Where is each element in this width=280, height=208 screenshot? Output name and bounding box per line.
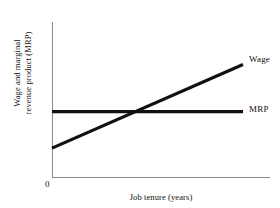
series-label-mrp: MRP [249,104,269,114]
plot-area [0,0,280,208]
chart-figure: Wage and marginal revenue product (MRP) … [0,0,280,208]
series-line-wage [52,65,243,149]
series-label-wage: Wage [249,54,270,64]
series-svg [0,0,280,208]
